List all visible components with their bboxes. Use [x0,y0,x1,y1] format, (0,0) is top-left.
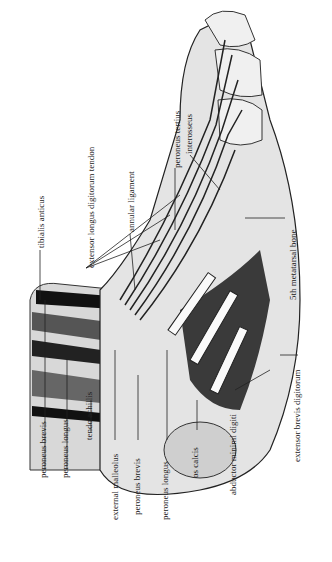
label-peroneus-brevis: peroneus brevis [38,421,48,478]
label-peroneus-brevis-lower: peroneus brevis [132,458,142,515]
label-tendo-achillis: tendo achillis [84,392,94,440]
label-os-calcis: os calcis [190,447,200,478]
label-external-malleolus: external malleolus [110,454,120,520]
label-peroneus-longus-lower: peroneus longus [160,461,170,520]
label-tibialis-anticus: tibialis anticus [36,196,46,248]
label-interosseus: interosseus [184,114,194,154]
label-peroneus-tertius: peroneus tertius [172,111,182,168]
anatomy-figure: peroneus brevis peroneus longus tendo ac… [0,0,332,562]
label-peroneus-longus: peroneus longus [60,419,70,478]
label-abductor-minimi-digiti: abductor minimi digiti [228,414,238,495]
label-extensor-longus-digitorum-tendon: extensor longus digitorum tendon [86,147,96,268]
label-annular-ligament: annular ligament [126,171,136,232]
label-5th-metatarsal-bone: 5th metatarsal bone [288,230,298,300]
label-extensor-brevis-digitorum: extensor brevis digitorum [292,370,302,462]
